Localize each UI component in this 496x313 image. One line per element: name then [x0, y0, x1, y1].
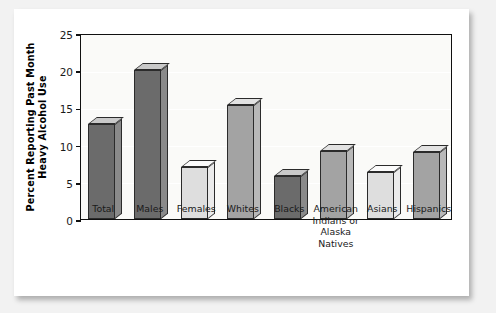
bar	[134, 70, 161, 219]
y-axis-tick	[76, 71, 81, 73]
y-axis-tick	[76, 183, 81, 185]
y-axis-tick-label: 5	[66, 178, 73, 190]
bar-chart: Percent Reporting Past Month Heavy Alcoh…	[14, 9, 469, 296]
x-axis-tick-label: Hispanics	[402, 203, 457, 215]
y-axis-tick	[76, 220, 81, 222]
y-axis-tick-label: 0	[66, 215, 73, 227]
bar-front-face	[227, 105, 254, 219]
x-axis-label-line: Indians or	[309, 215, 364, 227]
y-axis-tick-label: 10	[60, 141, 73, 153]
plot-area: 0510152025	[80, 34, 452, 220]
y-axis-title: Percent Reporting Past Month Heavy Alcoh…	[24, 34, 50, 220]
y-axis-title-line1: Percent Reporting Past Month	[25, 42, 37, 211]
bar	[227, 105, 254, 219]
y-axis-tick	[76, 146, 81, 148]
x-axis-label-line: Alaska	[309, 226, 364, 238]
y-axis-title-line2: Heavy Alcohol Use	[37, 75, 49, 178]
x-axis-label-line: Natives	[309, 238, 364, 250]
chart-card: Percent Reporting Past Month Heavy Alcoh…	[14, 9, 469, 296]
y-axis-tick-label: 15	[60, 103, 73, 115]
page: Percent Reporting Past Month Heavy Alcoh…	[0, 0, 496, 313]
y-axis-tick	[76, 34, 81, 36]
y-axis-tick	[76, 109, 81, 111]
x-axis-label-line: Hispanics	[402, 203, 457, 215]
bar-side-face	[254, 100, 261, 219]
y-axis-tick-label: 20	[60, 66, 73, 78]
y-axis-tick-label: 25	[60, 29, 73, 41]
bar-front-face	[134, 70, 161, 219]
bar-side-face	[161, 65, 168, 219]
